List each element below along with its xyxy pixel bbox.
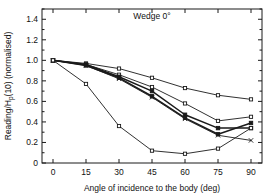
y-tick-label: 1.4 bbox=[26, 14, 38, 24]
x-tick-label: 60 bbox=[180, 167, 190, 177]
data-point-series-1 bbox=[216, 94, 219, 97]
y-axis-label-text: Reading/Hp(10) (normalised) bbox=[3, 32, 15, 141]
data-point-series-6 bbox=[249, 126, 252, 129]
y-tick-label: 1.0 bbox=[26, 55, 38, 65]
y-tick-label: 0.2 bbox=[26, 137, 38, 147]
x-tick-label: 0 bbox=[51, 167, 56, 177]
data-point-series-6 bbox=[84, 82, 87, 85]
x-tick-label: 90 bbox=[246, 167, 256, 177]
y-tick-label: 0.6 bbox=[26, 96, 38, 106]
data-point-series-1 bbox=[183, 86, 186, 89]
data-point-series-1 bbox=[117, 67, 120, 70]
x-tick-label: 15 bbox=[81, 167, 91, 177]
series-line-series-6 bbox=[53, 60, 251, 153]
chart-figure: 015304560759000.20.40.60.81.01.21.4Wedge… bbox=[0, 0, 273, 195]
x-tick-label: 30 bbox=[114, 167, 124, 177]
data-point-series-2 bbox=[216, 119, 219, 122]
x-axis-label: Angle of incidence to the body (deg) bbox=[84, 183, 220, 193]
y-tick-label: 1.2 bbox=[26, 35, 38, 45]
data-point-series-6 bbox=[183, 152, 186, 155]
x-tick-label: 45 bbox=[147, 167, 157, 177]
data-point-series-3 bbox=[216, 126, 219, 129]
data-point-series-2 bbox=[183, 102, 186, 105]
data-point-series-6 bbox=[51, 59, 54, 62]
data-point-series-6 bbox=[150, 149, 153, 152]
data-point-series-2 bbox=[150, 85, 153, 88]
data-point-series-6 bbox=[216, 147, 219, 150]
series-line-series-1 bbox=[53, 60, 251, 99]
y-label-post: (10) (normalised) bbox=[3, 32, 13, 97]
y-tick-label: 0.8 bbox=[26, 76, 38, 86]
y-tick-label: 0.4 bbox=[26, 117, 38, 127]
data-point-series-4 bbox=[249, 121, 252, 124]
y-tick-label: 0 bbox=[33, 158, 38, 168]
y-label-pre: Reading/H bbox=[3, 100, 13, 140]
data-point-series-2 bbox=[249, 115, 252, 118]
chart-svg: 015304560759000.20.40.60.81.01.21.4Wedge… bbox=[0, 0, 273, 195]
data-point-series-6 bbox=[117, 124, 120, 127]
data-point-series-3 bbox=[150, 89, 153, 92]
x-tick-label: 75 bbox=[213, 167, 223, 177]
y-axis-label: Reading/Hp(10) (normalised) bbox=[3, 32, 15, 141]
data-point-series-1 bbox=[150, 76, 153, 79]
data-point-series-1 bbox=[249, 98, 252, 101]
chart-title: Wedge 0° bbox=[133, 11, 170, 21]
